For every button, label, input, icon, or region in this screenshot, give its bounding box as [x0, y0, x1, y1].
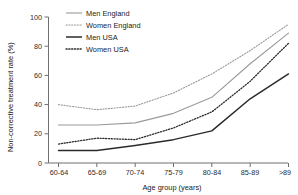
x-tick-label-over-89: >89: [279, 168, 291, 177]
x-tick-label-80-84: 80-84: [203, 168, 221, 177]
x-tick-labels: 60-64 65-69 70-74 75-79 80-84 85-89 >89: [50, 168, 291, 177]
y-tick-label-20: 20: [34, 129, 42, 138]
x-tick-label-85-89: 85-89: [241, 168, 259, 177]
legend-label-men-england: Men England: [86, 9, 130, 18]
x-tick-label-75-79: 75-79: [164, 168, 182, 177]
y-tick-label-40: 40: [34, 100, 42, 109]
x-axis-ticks: [59, 163, 289, 167]
chart-figure: Non-corrective treatment rate (%) 0 20 4…: [0, 0, 298, 195]
series-group: [59, 24, 289, 150]
x-tick-label-70-74: 70-74: [126, 168, 144, 177]
legend-label-men-usa: Men USA: [86, 33, 118, 42]
y-tick-label-0: 0: [38, 159, 42, 168]
line-chart: Non-corrective treatment rate (%) 0 20 4…: [0, 0, 298, 195]
y-tick-label-80: 80: [34, 42, 42, 51]
y-axis-ticks: [45, 17, 49, 163]
y-axis-title: Non-corrective treatment rate (%): [6, 42, 15, 152]
series-line-women-usa: [59, 43, 289, 144]
legend-label-women-england: Women England: [86, 21, 141, 30]
x-tick-label-60-64: 60-64: [50, 168, 68, 177]
y-tick-labels: 0 20 40 60 80 100: [30, 13, 42, 168]
y-tick-label-60: 60: [34, 71, 42, 80]
legend-label-women-usa: Women USA: [86, 45, 129, 54]
x-tick-label-65-69: 65-69: [88, 168, 106, 177]
x-axis-title: Age group (years): [142, 183, 201, 192]
y-tick-label-100: 100: [30, 13, 42, 22]
chart-legend: Men England Women England Men USA Women …: [66, 9, 141, 54]
